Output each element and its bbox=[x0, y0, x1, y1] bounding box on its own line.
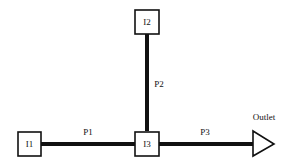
pipe-network-diagram: I2 I1 I3 Outlet P1 P2 P3 bbox=[0, 0, 292, 166]
node-outlet[interactable]: Outlet bbox=[253, 112, 276, 156]
node-i1[interactable]: I1 bbox=[18, 132, 41, 156]
node-i2-label: I2 bbox=[143, 17, 151, 27]
pipe-p1-label: P1 bbox=[83, 127, 93, 137]
node-i3[interactable]: I3 bbox=[135, 132, 159, 156]
pipe-p3-label: P3 bbox=[200, 127, 210, 137]
node-i2[interactable]: I2 bbox=[135, 10, 159, 34]
pipe-p2-label: P2 bbox=[154, 79, 164, 89]
node-i3-label: I3 bbox=[143, 139, 151, 149]
node-i1-label: I1 bbox=[26, 139, 34, 149]
outlet-triangle-icon bbox=[253, 131, 274, 156]
node-outlet-label: Outlet bbox=[253, 112, 276, 122]
